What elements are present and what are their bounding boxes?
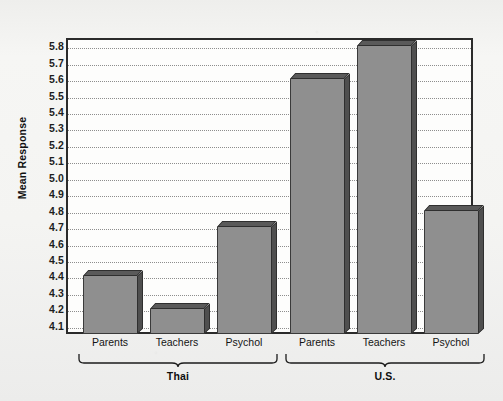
y-axis-tick-label: 5.7 [49, 57, 64, 69]
y-axis-tick-label: 4.5 [49, 254, 64, 266]
y-axis-tick-label: 5.4 [49, 106, 64, 118]
gridline [68, 114, 471, 115]
y-axis-tick-label: 4.2 [49, 303, 64, 315]
gridline [68, 246, 471, 247]
category-label: Psychol [416, 336, 486, 348]
bar-chart-figure: Mean Response 5.85.75.65.55.45.35.25.15.… [0, 0, 503, 401]
category-label: Parents [282, 336, 352, 348]
y-axis-tick-label: 5.6 [49, 73, 64, 85]
gridline [68, 81, 471, 82]
gridline [68, 130, 471, 131]
y-axis-tick-label: 5.3 [49, 122, 64, 134]
gridline [68, 278, 471, 279]
gridline [68, 196, 471, 197]
gridline [68, 262, 471, 263]
gridline [68, 328, 471, 329]
brace-icon [285, 354, 485, 368]
gridlines [68, 40, 471, 332]
group-brace-thai: Thai [78, 354, 278, 368]
y-axis-tick-label: 4.4 [49, 270, 64, 282]
group-braces: ThaiU.S. [66, 354, 473, 394]
gridline [68, 98, 471, 99]
gridline [68, 180, 471, 181]
y-axis-tick-label: 5.5 [49, 90, 64, 102]
y-axis-tick-label: 4.7 [49, 221, 64, 233]
gridline [68, 229, 471, 230]
category-label: Psychol [209, 336, 279, 348]
gridline [68, 295, 471, 296]
y-axis-tick-label: 4.3 [49, 287, 64, 299]
y-axis-tick-label: 4.6 [49, 238, 64, 250]
y-axis-tick-label: 5.2 [49, 139, 64, 151]
group-label: U.S. [285, 370, 485, 382]
gridline [68, 65, 471, 66]
group-brace-us: U.S. [285, 354, 485, 368]
gridline [68, 147, 471, 148]
category-label: Teachers [349, 336, 419, 348]
gridline [68, 48, 471, 49]
y-axis-tick-label: 5.1 [49, 155, 64, 167]
y-axis-tick-labels: 5.85.75.65.55.45.35.25.15.04.94.84.74.64… [30, 38, 64, 334]
y-axis-tick-label: 4.9 [49, 188, 64, 200]
gridline [68, 213, 471, 214]
y-axis-tick-label: 5.0 [49, 172, 64, 184]
category-label: Teachers [142, 336, 212, 348]
y-axis-title: Mean Response [16, 110, 28, 206]
brace-icon [78, 354, 278, 368]
gridline [68, 311, 471, 312]
gridline [68, 163, 471, 164]
y-axis-tick-label: 4.1 [49, 320, 64, 332]
y-axis-tick-label: 4.8 [49, 205, 64, 217]
y-axis-tick-label: 5.8 [49, 40, 64, 52]
bar-side-face [478, 205, 484, 334]
category-label: Parents [75, 336, 145, 348]
plot-area [66, 38, 473, 334]
group-label: Thai [78, 370, 278, 382]
